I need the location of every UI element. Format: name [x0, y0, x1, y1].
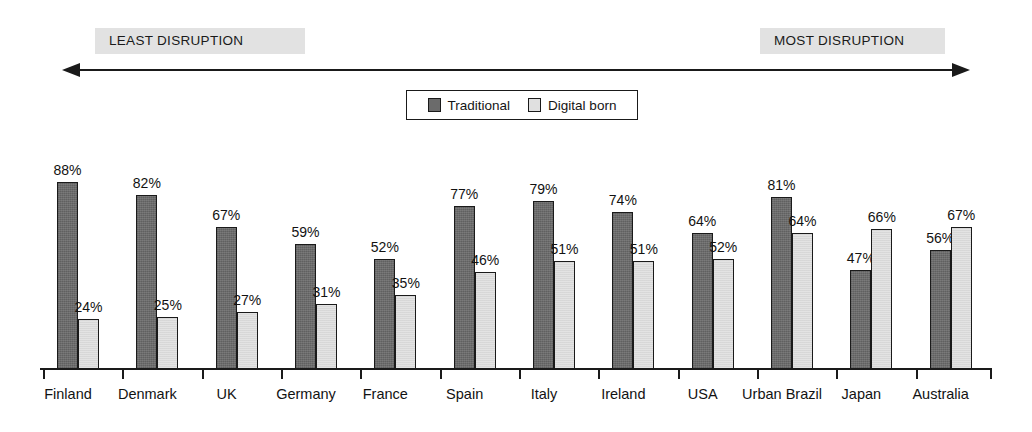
bar-rect-digital: [554, 261, 575, 370]
bar-traditional[interactable]: 56%: [930, 250, 951, 370]
least-disruption-label: LEAST DISRUPTION: [95, 28, 305, 54]
bar-rect-digital: [633, 261, 654, 370]
bar-rect-digital: [951, 227, 972, 370]
bar-digital[interactable]: 35%: [395, 295, 416, 370]
bar-rect-digital: [78, 319, 99, 370]
bar-digital[interactable]: 64%: [792, 233, 813, 370]
bar-value-label: 74%: [609, 193, 637, 207]
bar-value-label: 64%: [688, 214, 716, 228]
x-axis-tick: [678, 368, 680, 379]
x-axis-tick: [990, 368, 992, 379]
legend-label-traditional: Traditional: [448, 98, 511, 113]
bar-digital[interactable]: 51%: [554, 261, 575, 370]
bar-digital[interactable]: 27%: [237, 312, 258, 370]
bar-digital[interactable]: 52%: [713, 259, 734, 370]
bar-rect-traditional: [533, 201, 554, 370]
bar-group: 64%52%: [675, 150, 754, 370]
legend-swatch-digital-born: [528, 98, 541, 112]
bar-group: 82%25%: [119, 150, 198, 370]
bar-value-label: 27%: [233, 293, 261, 307]
bar-rect-digital: [157, 317, 178, 370]
bar-value-label: 82%: [133, 176, 161, 190]
bar-value-label: 51%: [550, 242, 578, 256]
x-axis-tick: [598, 368, 600, 379]
bar-value-label: 64%: [788, 214, 816, 228]
bar-traditional[interactable]: 79%: [533, 201, 554, 370]
bar-rect-digital: [316, 304, 337, 370]
bar-rect-traditional: [136, 195, 157, 370]
x-axis-tick: [916, 368, 918, 379]
bar-group: 56%67%: [913, 150, 992, 370]
bar-traditional[interactable]: 74%: [612, 212, 633, 370]
x-axis-tick: [43, 368, 45, 379]
bar-traditional[interactable]: 59%: [295, 244, 316, 370]
bar-rect-digital: [395, 295, 416, 370]
bar-rect-digital: [713, 259, 734, 370]
most-disruption-label: MOST DISRUPTION: [760, 28, 945, 54]
bar-value-label: 67%: [212, 208, 240, 222]
legend-swatch-traditional: [428, 98, 441, 112]
bar-value-label: 67%: [947, 208, 975, 222]
bar-rect-digital: [792, 233, 813, 370]
bar-value-label: 52%: [371, 240, 399, 254]
bar-digital[interactable]: 24%: [78, 319, 99, 370]
bar-value-label: 79%: [529, 182, 557, 196]
bar-value-label: 46%: [471, 253, 499, 267]
x-axis-tick: [757, 368, 759, 379]
bar-value-label: 77%: [450, 187, 478, 201]
bar-group: 47%66%: [833, 150, 912, 370]
bar-digital[interactable]: 66%: [871, 229, 892, 370]
bar-group: 59%31%: [278, 150, 357, 370]
x-axis-line: [40, 368, 992, 370]
bar-value-label: 88%: [53, 163, 81, 177]
double-headed-arrow-icon: [62, 62, 970, 78]
bar-value-label: 66%: [868, 210, 896, 224]
plot-area: 88%24%82%25%67%27%59%31%52%35%77%46%79%5…: [40, 150, 992, 370]
bar-rect-traditional: [295, 244, 316, 370]
bar-digital[interactable]: 46%: [475, 272, 496, 370]
bar-rect-traditional: [57, 182, 78, 370]
disruption-bar-chart-figure: LEAST DISRUPTION MOST DISRUPTION Traditi…: [0, 0, 1032, 432]
x-axis-tick: [836, 368, 838, 379]
bar-group: 52%35%: [357, 150, 436, 370]
bar-group: 77%46%: [437, 150, 516, 370]
x-axis-tick: [202, 368, 204, 379]
bar-digital[interactable]: 67%: [951, 227, 972, 370]
x-axis-tick: [440, 368, 442, 379]
bar-traditional[interactable]: 88%: [57, 182, 78, 370]
bar-value-label: 25%: [154, 298, 182, 312]
bar-traditional[interactable]: 82%: [136, 195, 157, 370]
bar-value-label: 24%: [74, 300, 102, 314]
chart-legend: Traditional Digital born: [406, 90, 638, 120]
legend-label-digital-born: Digital born: [548, 98, 616, 113]
legend-entry-traditional: Traditional: [428, 98, 511, 113]
bar-digital[interactable]: 25%: [157, 317, 178, 370]
bar-value-label: 81%: [767, 178, 795, 192]
bar-traditional[interactable]: 77%: [454, 206, 475, 370]
bar-rect-digital: [871, 229, 892, 370]
bar-digital[interactable]: 31%: [316, 304, 337, 370]
x-axis-tick: [122, 368, 124, 379]
bar-rect-digital: [475, 272, 496, 370]
bar-digital[interactable]: 51%: [633, 261, 654, 370]
bar-value-label: 35%: [392, 276, 420, 290]
legend-entry-digital-born: Digital born: [528, 98, 616, 113]
x-axis-tick: [281, 368, 283, 379]
x-axis-category-label: Australia: [886, 386, 996, 402]
bar-value-label: 51%: [630, 242, 658, 256]
bar-traditional[interactable]: 47%: [850, 270, 871, 370]
bar-rect-traditional: [612, 212, 633, 370]
bar-rect-traditional: [454, 206, 475, 370]
bar-group: 81%64%: [754, 150, 833, 370]
bar-group: 79%51%: [516, 150, 595, 370]
x-axis-tick: [360, 368, 362, 379]
bar-rect-traditional: [930, 250, 951, 370]
bar-group: 67%27%: [199, 150, 278, 370]
bar-value-label: 52%: [709, 240, 737, 254]
bar-value-label: 59%: [291, 225, 319, 239]
bar-rect-traditional: [850, 270, 871, 370]
bar-value-label: 31%: [312, 285, 340, 299]
x-axis-tick: [519, 368, 521, 379]
bar-group: 74%51%: [595, 150, 674, 370]
bar-group: 88%24%: [40, 150, 119, 370]
